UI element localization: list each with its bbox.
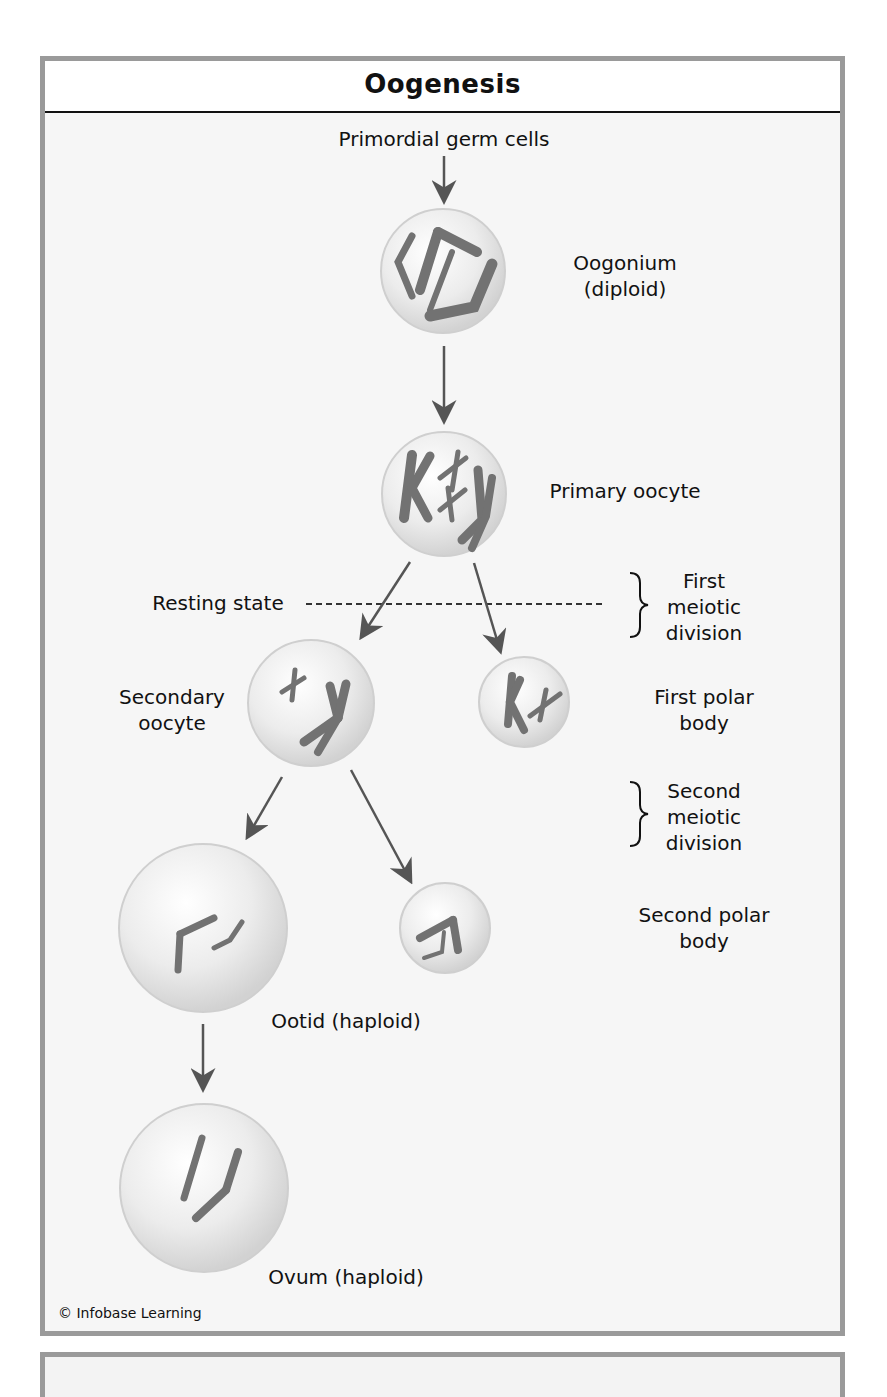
ovum-cell: [120, 1104, 288, 1272]
label-primary-oocyte: Primary oocyte: [549, 479, 700, 503]
primary-oocyte-cell: [382, 432, 506, 556]
brace-icon: [630, 782, 648, 846]
first-polar-body-cell: [479, 657, 569, 747]
label-first-polar: First polar: [654, 685, 754, 709]
label-first-meiotic-2: meiotic: [667, 595, 741, 619]
label-oogonium: Oogonium: [573, 251, 676, 275]
label-first-meiotic-3: division: [666, 621, 743, 645]
label-second-polar-body: body: [679, 929, 729, 953]
label-second-polar: Second polar: [639, 903, 771, 927]
label-secondary: Secondary: [119, 685, 225, 709]
label-primordial-germ-cells: Primordial germ cells: [338, 127, 549, 151]
second-polar-body-cell: [400, 883, 490, 973]
label-ovum: Ovum (haploid): [268, 1265, 423, 1289]
label-second-meiotic-2: meiotic: [667, 805, 741, 829]
arrow-icon: [362, 562, 410, 636]
arrow-icon: [351, 770, 410, 880]
label-first-meiotic-1: First: [683, 569, 725, 593]
label-second-meiotic-1: Second: [667, 779, 741, 803]
label-ootid: Ootid (haploid): [271, 1009, 421, 1033]
arrow-icon: [474, 563, 500, 650]
credit-text: © Infobase Learning: [58, 1305, 202, 1321]
label-resting-state: Resting state: [152, 591, 284, 615]
arrow-icon: [248, 777, 282, 836]
label-secondary-oocyte: oocyte: [138, 711, 205, 735]
brace-icon: [630, 573, 648, 637]
oogonium-cell: [381, 209, 505, 333]
label-second-meiotic-3: division: [666, 831, 743, 855]
label-first-polar-body: body: [679, 711, 729, 735]
ootid-cell: [119, 844, 287, 1012]
secondary-oocyte-cell: [248, 640, 374, 766]
label-oogonium-diploid: (diploid): [584, 277, 667, 301]
